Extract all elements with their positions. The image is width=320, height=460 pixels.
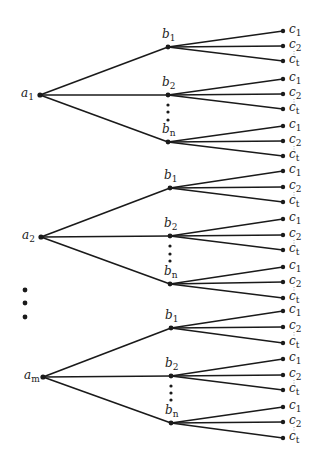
edge-b-c (171, 422, 283, 423)
b-node (169, 421, 174, 426)
leaf-label-c1: c1 (289, 303, 301, 318)
edge-a-b (41, 237, 170, 284)
leaf-node (281, 296, 285, 300)
leaf-label-ct: ct (289, 53, 299, 68)
leaf-node (281, 248, 285, 252)
b-node (168, 234, 173, 239)
edge-b-c (168, 142, 283, 156)
leaf-node (281, 200, 285, 204)
leaf-node (281, 280, 285, 284)
leaf-node (281, 325, 285, 329)
edge-b-c (171, 423, 283, 438)
edge-b-c (170, 236, 283, 250)
leaf-node (281, 265, 285, 269)
edge-b-c (168, 46, 283, 47)
root-label-am: am (24, 369, 40, 384)
leaf-node (281, 44, 285, 48)
leaf-label-ct: ct (289, 101, 299, 116)
leaf-node (281, 436, 285, 440)
b-node (169, 374, 174, 379)
b-ellipsis-dot (169, 391, 172, 394)
root-node (38, 234, 43, 239)
b-label-bn: bn (164, 265, 177, 280)
leaf-label-c2: c2 (289, 179, 301, 194)
edge-b-c (168, 79, 283, 95)
leaf-node (281, 124, 285, 128)
edge-b-c (170, 171, 283, 188)
leaf-node (281, 420, 285, 424)
edge-b-c (171, 407, 283, 423)
b-node (166, 93, 171, 98)
leaf-label-c1: c1 (289, 259, 301, 274)
leaf-node (281, 388, 285, 392)
leaf-label-ct: ct (289, 194, 299, 209)
leaf-node (281, 169, 285, 173)
leaf-node (281, 92, 285, 96)
b-ellipsis-dot (169, 398, 172, 401)
leaf-label-c2: c2 (289, 319, 301, 334)
leaf-label-c2: c2 (289, 133, 301, 148)
leaf-label-c2: c2 (289, 227, 301, 242)
edge-a-b (43, 377, 171, 423)
leaf-label-ct: ct (289, 335, 299, 350)
edge-b-c (171, 359, 283, 376)
leaf-label-c1: c1 (289, 71, 301, 86)
leaf-label-c1: c1 (289, 23, 301, 38)
edge-b-c (168, 95, 283, 109)
edge-a-b (41, 236, 170, 237)
leaf-node (281, 59, 285, 63)
leaf-label-ct: ct (289, 382, 299, 397)
root-ellipsis-dot (23, 301, 28, 306)
b-ellipsis-dot (168, 252, 171, 255)
leaf-label-c1: c1 (289, 163, 301, 178)
edge-b-c (170, 219, 283, 236)
edge-b-c (170, 187, 283, 188)
edge-a-b (43, 328, 171, 377)
edge-b-c (170, 235, 283, 236)
edge-a-b (41, 188, 170, 237)
tree-diagram (0, 0, 320, 460)
edge-b-c (170, 282, 283, 284)
edge-b-c (171, 311, 283, 328)
edge-a-b (40, 47, 168, 95)
leaf-label-c2: c2 (289, 274, 301, 289)
leaf-node (281, 341, 285, 345)
b-ellipsis-dot (166, 110, 169, 113)
leaf-label-c1: c1 (289, 211, 301, 226)
leaf-node (281, 373, 285, 377)
b-label-bn: bn (162, 123, 175, 138)
b-label-b2: b2 (164, 217, 177, 232)
leaf-label-c2: c2 (289, 86, 301, 101)
b-node (166, 45, 171, 50)
edge-a-b (40, 95, 168, 142)
b-ellipsis-dot (169, 384, 172, 387)
b-ellipsis-dot (166, 103, 169, 106)
edge-b-c (171, 375, 283, 376)
root-node (40, 374, 45, 379)
root-label-a1: a1 (21, 87, 34, 102)
leaf-node (281, 357, 285, 361)
edge-b-c (168, 31, 283, 47)
leaf-label-c1: c1 (289, 118, 301, 133)
leaf-label-c2: c2 (289, 367, 301, 382)
leaf-node (281, 29, 285, 33)
b-ellipsis-dot (168, 259, 171, 262)
edge-b-c (171, 376, 283, 390)
leaf-label-ct: ct (289, 148, 299, 163)
leaf-node (281, 77, 285, 81)
root-ellipsis-dot (23, 315, 28, 320)
root-label-a2: a2 (22, 229, 35, 244)
b-node (168, 282, 173, 287)
leaf-node (281, 154, 285, 158)
b-label-b1: b1 (165, 309, 178, 324)
b-label-b1: b1 (164, 169, 177, 184)
edge-b-c (171, 327, 283, 328)
edge-b-c (168, 141, 283, 142)
b-label-b1: b1 (162, 28, 175, 43)
b-label-b2: b2 (165, 357, 178, 372)
b-label-bn: bn (165, 404, 178, 419)
leaf-label-ct: ct (289, 242, 299, 257)
leaf-label-c2: c2 (289, 414, 301, 429)
leaf-label-c1: c1 (289, 351, 301, 366)
b-node (168, 186, 173, 191)
